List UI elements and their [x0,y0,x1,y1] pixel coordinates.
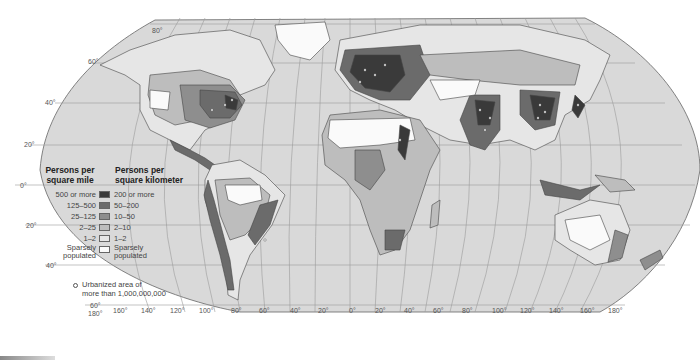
swatch-sparse [99,246,110,253]
lon-label-40e: 40° [404,307,415,314]
lon-label-80w: 80° [231,307,242,314]
legend-row-50-200: 125–500 50–200 [36,201,206,210]
swatch-10-50 [99,213,110,220]
legend-row-2-10: 2–25 2–10 [36,223,206,232]
lon-label-180e: 180° [608,307,622,314]
lon-label-140w: 140° [141,307,155,314]
lon-label-120e: 120° [520,307,534,314]
lon-label-160e: 160° [580,307,594,314]
lon-label-60e: 60° [433,307,444,314]
lon-label-160w: 160° [113,307,127,314]
lon-label-120w: 120° [170,307,184,314]
lon-label-60w: 60° [259,307,270,314]
lat-label-60n: 60° [88,58,99,65]
lon-label-180w: 180° [88,310,102,317]
urban-dot-icon [73,283,78,288]
lon-label-40w: 40° [290,307,301,314]
lon-label-20w: 20° [318,307,329,314]
swatch-200-plus [99,191,110,198]
lon-label-100e: 100° [492,307,506,314]
lat-label-80n: 80° [152,27,163,34]
lon-label-80e: 80° [462,307,473,314]
swatch-2-10 [99,224,110,231]
page-edge-shadow [0,356,55,360]
legend-row-1-2: 1–2 1–2 [36,234,206,243]
lon-label-100w: 100° [199,307,213,314]
legend-row-200-plus: 500 or more 200 or more [36,190,206,199]
legend-row-sparse: Sparsely populated Sparsely populated [36,244,206,262]
swatch-50-200 [99,202,110,209]
swatch-1-2 [99,235,110,242]
lon-label-20e: 20° [375,307,386,314]
lon-label-0: 0° [349,307,356,314]
legend-row-10-50: 25–125 10–50 [36,212,206,221]
lat-label-20n: 20° [24,141,35,148]
legend-urban-note: Urbanized area of more than 1,000,000,00… [73,280,166,298]
lat-label-0: 0° [20,182,27,189]
lat-label-40s: 40° [46,262,57,269]
lat-label-20s: 20° [26,222,37,229]
legend-heading-mile: Persons per square mile [39,166,101,185]
legend-heading-km: Persons per square kilometer [115,166,183,185]
lat-label-60s: 60° [90,302,101,309]
lat-label-40n: 40° [45,99,56,106]
lon-label-140e: 140° [549,307,563,314]
